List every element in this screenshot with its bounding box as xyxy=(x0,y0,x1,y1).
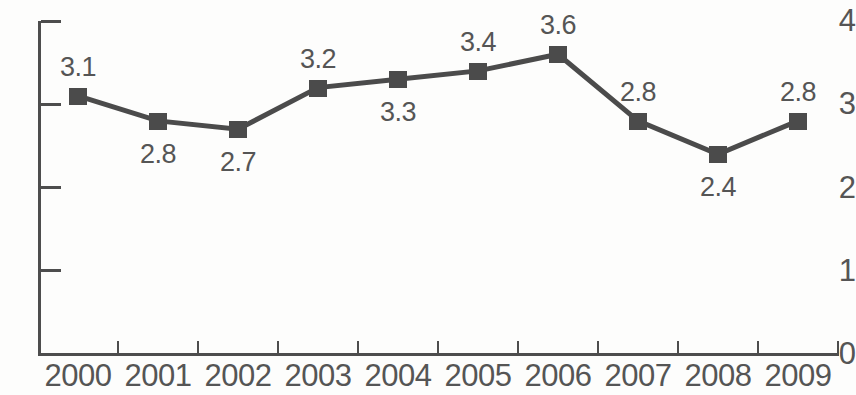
data-point-value-label: 2.8 xyxy=(606,79,670,106)
data-point-marker xyxy=(709,146,727,163)
data-point-marker xyxy=(549,46,567,63)
data-point-marker xyxy=(149,113,167,130)
data-point-marker xyxy=(629,113,647,130)
data-point-value-label: 3.1 xyxy=(46,54,110,81)
data-point-marker xyxy=(309,80,327,97)
data-point-marker xyxy=(229,121,247,138)
data-point-marker xyxy=(469,63,487,80)
data-point-marker xyxy=(789,113,807,130)
data-point-value-label: 2.8 xyxy=(766,79,830,106)
data-point-marker xyxy=(69,88,87,105)
line-chart: 01234 2000200120022003200420052006200720… xyxy=(0,0,856,395)
data-point-marker xyxy=(389,71,407,88)
data-point-value-label: 3.3 xyxy=(366,99,430,126)
data-point-value-label: 3.6 xyxy=(526,12,590,39)
data-point-value-label: 3.4 xyxy=(446,29,510,56)
data-point-value-label: 2.7 xyxy=(206,149,270,176)
data-point-value-label: 2.4 xyxy=(686,174,750,201)
data-point-value-label: 2.8 xyxy=(126,141,190,168)
data-point-value-label: 3.2 xyxy=(286,46,350,73)
